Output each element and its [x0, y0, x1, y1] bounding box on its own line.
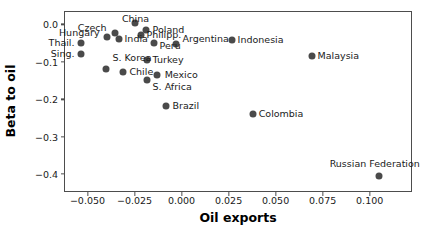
data-point — [119, 69, 126, 76]
data-point — [143, 77, 150, 84]
data-point — [228, 36, 235, 43]
y-tick-mark — [61, 61, 65, 62]
data-point-label: Brazil — [173, 101, 200, 111]
y-tick-label: −0.4 — [35, 169, 58, 180]
y-tick-mark — [61, 24, 65, 25]
data-point-label: Sing. — [51, 49, 75, 59]
data-point-label: Argentina — [183, 34, 229, 44]
data-point-label: Chile — [129, 67, 153, 77]
data-point — [154, 72, 161, 79]
data-point — [375, 173, 382, 180]
y-tick-label: 0.0 — [43, 19, 58, 30]
data-point-label: India — [125, 34, 148, 44]
data-point-label: Russian Federation — [330, 159, 420, 169]
data-point-label: Turkey — [153, 55, 184, 65]
y-tick-mark — [61, 136, 65, 137]
x-tick-label: 0.100 — [356, 195, 383, 206]
data-point — [102, 66, 109, 73]
y-tick-label: −0.2 — [35, 94, 58, 105]
x-tick-label: 0.000 — [168, 195, 195, 206]
y-tick-mark — [61, 174, 65, 175]
data-point — [103, 33, 110, 40]
data-point — [116, 35, 123, 42]
data-point-label: China — [122, 14, 149, 24]
data-point — [150, 39, 157, 46]
data-point-label: Malaysia — [318, 51, 360, 61]
x-tick-label: −0.025 — [117, 195, 152, 206]
data-point-label: S. Africa — [153, 82, 192, 92]
data-point-label: S. Korea — [113, 53, 152, 63]
data-point-label: Thail. — [49, 38, 75, 48]
data-point-label: Peru — [160, 41, 181, 51]
x-tick-label: 0.050 — [262, 195, 289, 206]
x-tick-label: 0.025 — [215, 195, 242, 206]
data-point — [308, 53, 315, 60]
x-tick-label: −0.050 — [70, 195, 105, 206]
y-tick-mark — [61, 99, 65, 100]
x-tick-label: 0.075 — [309, 195, 336, 206]
data-point — [162, 102, 169, 109]
scatter-chart-figure: −0.050−0.0250.0000.0250.0500.0750.1000.0… — [0, 0, 432, 231]
y-axis-label: Beta to oil — [3, 65, 18, 138]
y-tick-label: −0.3 — [35, 131, 58, 142]
x-axis-label: Oil exports — [199, 210, 276, 225]
data-point-label: Mexico — [165, 70, 198, 80]
data-point-label: Indonesia — [238, 35, 284, 45]
data-point — [78, 39, 85, 46]
data-point — [78, 51, 85, 58]
data-point-label: Colombia — [259, 109, 304, 119]
data-point — [249, 110, 256, 117]
